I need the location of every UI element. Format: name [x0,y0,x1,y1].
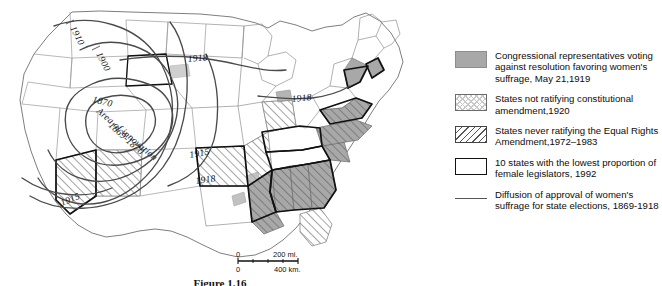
legend-label-diffusion: Diffusion of approval of women's suffrag… [495,189,662,212]
legend-label-voting-against: Congressional representatives voting aga… [495,50,662,84]
scalebar-miles-value: 200 mi. [273,250,298,259]
legend-swatch-diagonal-hatch [455,126,487,143]
legend-swatch-gray-line [455,190,487,207]
legend-item-voting-against: Congressional representatives voting aga… [455,50,662,84]
legend-swatch-solid-gray [455,51,487,68]
map-legend: Congressional representatives voting aga… [455,50,662,220]
legend-swatch-dotted-crosshatch [455,94,487,111]
scalebar-miles-zero: 0 [236,250,240,259]
figure-root: 1910 1900 1870 Area of innovation 1869-1… [0,0,662,286]
legend-label-era: States never ratifying the Equal Rights … [495,125,662,148]
legend-label-female-legislators: 10 states with the lowest proportion of … [495,157,662,180]
scalebar-km-zero: 0 [236,265,240,274]
map-label-1918-north: 1918 [187,52,208,64]
scalebar-km-value: 400 km. [274,265,301,274]
map-panel: 1910 1900 1870 Area of innovation 1869-1… [0,0,440,286]
figure-caption: Figure 1.16 [0,277,440,286]
legend-item-era: States never ratifying the Equal Rights … [455,125,662,148]
legend-label-not-ratifying: States not ratifying constitutional amen… [495,93,662,116]
legend-swatch-black-outline [455,158,487,175]
legend-item-diffusion: Diffusion of approval of women's suffrag… [455,189,662,212]
legend-item-female-legislators: 10 states with the lowest proportion of … [455,157,662,180]
map-label-1918-east: 1918 [291,92,312,104]
united-states-map-svg: 1910 1900 1870 Area of innovation 1869-1… [0,0,440,286]
map-scale-bar: 0 200 mi. 0 400 km. [236,250,332,276]
legend-item-not-ratifying: States not ratifying constitutional amen… [455,93,662,116]
